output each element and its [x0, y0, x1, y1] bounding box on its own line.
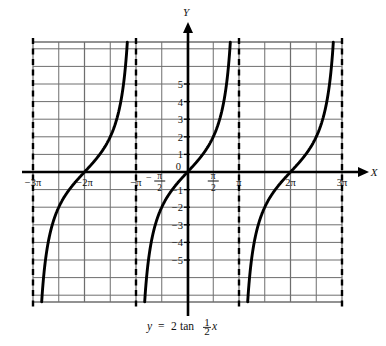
y-tick-label: 1 [178, 149, 183, 160]
x-axis-label: X [370, 166, 379, 178]
x-tick-sign: − [146, 172, 152, 183]
y-tick-label: 2 [178, 132, 183, 143]
y-tick-label: 0 [176, 161, 181, 172]
caption-equals: = [158, 320, 165, 332]
caption-coefficient: 2 [171, 320, 177, 332]
caption-variable: x [211, 320, 218, 332]
figure-container: −3π−2π−π−π2π2π2π3π543210−1−2−3−4−5 Y X y… [0, 0, 386, 346]
x-tick-fraction-denominator: 2 [211, 183, 216, 193]
y-tick-label: −2 [172, 202, 183, 213]
x-tick-label: −3π [25, 177, 42, 188]
caption-function: tan [180, 320, 194, 332]
y-tick-label: 5 [178, 79, 183, 90]
y-tick-label: 3 [178, 114, 183, 125]
x-tick-label: π [236, 177, 242, 188]
x-tick-fraction-numerator: π [211, 171, 216, 181]
x-tick-label: 3π [337, 177, 348, 188]
caption-fraction-denominator: 2 [204, 325, 210, 337]
caption-lhs: y [146, 320, 153, 333]
y-tick-label: −3 [172, 220, 183, 231]
y-tick-label: 4 [178, 97, 184, 108]
x-tick-fraction-numerator: π [157, 171, 162, 181]
x-tick-fraction-denominator: 2 [157, 183, 162, 193]
x-tick-label: −π [130, 177, 142, 188]
y-tick-label: −5 [172, 255, 183, 266]
y-tick-label: −4 [172, 237, 184, 248]
x-tick-label: 2π [285, 177, 296, 188]
tangent-function-plot: −3π−2π−π−π2π2π2π3π543210−1−2−3−4−5 Y X y… [0, 0, 386, 346]
x-tick-label: −2π [76, 177, 93, 188]
y-tick-label: −1 [172, 185, 183, 196]
